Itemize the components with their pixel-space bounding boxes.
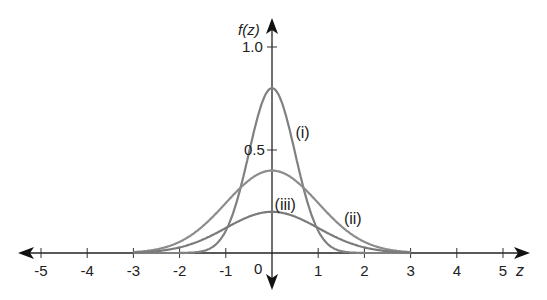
x-tick-label: 5 bbox=[499, 262, 507, 279]
x-tick-label: -4 bbox=[81, 262, 94, 279]
x-tick-label: 4 bbox=[453, 262, 461, 279]
curve-annotation: (iii) bbox=[275, 196, 296, 214]
x-tick-label: -3 bbox=[127, 262, 140, 279]
x-tick-label: 3 bbox=[406, 262, 414, 279]
origin-label: 0 bbox=[254, 260, 262, 277]
x-axis-label: z bbox=[516, 262, 524, 280]
curve-annotation: (i) bbox=[295, 124, 309, 142]
y-tick-05: 0.5 bbox=[244, 141, 265, 158]
x-tick-label: -5 bbox=[34, 262, 47, 279]
x-tick-label: 1 bbox=[314, 262, 322, 279]
x-tick-label: -2 bbox=[173, 262, 186, 279]
x-tick-label: 2 bbox=[360, 262, 368, 279]
y-tick-1: 1.0 bbox=[242, 38, 263, 55]
x-tick-label: -1 bbox=[219, 262, 232, 279]
y-axis-label: f(z) bbox=[238, 21, 260, 38]
curve-annotation: (ii) bbox=[344, 210, 362, 228]
chart-canvas bbox=[0, 0, 547, 300]
